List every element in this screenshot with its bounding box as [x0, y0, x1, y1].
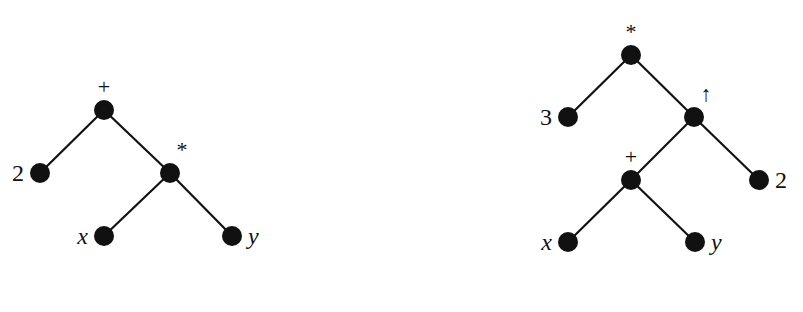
tree-edge [568, 180, 631, 242]
node-label: 2 [12, 160, 24, 186]
tree-edge [694, 117, 759, 180]
node-label: + [98, 74, 110, 99]
node-label: * [177, 137, 188, 162]
leaf-node [94, 226, 114, 246]
operator-node [621, 170, 641, 190]
node-label: y [246, 223, 259, 249]
operator-node [160, 163, 180, 183]
cutoff-top-text [0, 0, 803, 6]
node-label: y [709, 229, 722, 255]
operator-node [621, 45, 641, 65]
leaf-node [558, 232, 578, 252]
leaf-node [749, 170, 769, 190]
leaf-node [222, 226, 242, 246]
node-label: 2 [775, 167, 787, 193]
leaf-node [558, 107, 578, 127]
tree-edge [631, 180, 695, 242]
tree-edge [631, 117, 694, 180]
tree-edge [170, 173, 232, 236]
expression-trees-svg: +2*xy *3↑+2xy [0, 0, 803, 312]
left-tree: +2*xy [12, 74, 259, 249]
node-label: x [76, 223, 88, 249]
node-label: ↑ [701, 81, 712, 106]
leaf-node [30, 163, 50, 183]
operator-node [94, 100, 114, 120]
node-label: * [626, 19, 637, 44]
tree-edge [40, 110, 104, 173]
right-tree: *3↑+2xy [540, 19, 787, 255]
tree-edge [104, 173, 170, 236]
operator-node [684, 107, 704, 127]
tree-edge [568, 55, 631, 117]
node-label: x [540, 229, 552, 255]
node-label: 3 [540, 104, 552, 130]
tree-edge [104, 110, 170, 173]
node-label: + [625, 144, 637, 169]
leaf-node [685, 232, 705, 252]
tree-edge [631, 55, 694, 117]
diagram-canvas: +2*xy *3↑+2xy [0, 0, 803, 312]
